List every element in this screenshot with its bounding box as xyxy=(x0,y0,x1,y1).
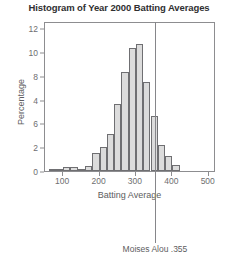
annotation-label: Moises Alou .355 xyxy=(123,244,188,254)
histogram-bar xyxy=(121,72,128,171)
histogram-bar xyxy=(158,145,165,171)
histogram-bar xyxy=(114,104,121,171)
y-tick-label: 0 xyxy=(18,167,38,177)
x-tick-mark xyxy=(171,172,172,176)
y-tick-label: 12 xyxy=(18,24,38,34)
histogram-bar xyxy=(129,48,136,171)
x-tick-mark xyxy=(135,172,136,176)
histogram-bar xyxy=(143,82,150,171)
x-tick-label: 300 xyxy=(118,176,152,186)
histogram-bar xyxy=(70,167,77,171)
x-tick-mark xyxy=(62,172,63,176)
x-tick-mark xyxy=(99,172,100,176)
histogram-bar xyxy=(56,169,63,171)
y-tick-label: 10 xyxy=(18,48,38,58)
histogram-bars xyxy=(45,23,214,171)
x-tick-label: 500 xyxy=(191,176,225,186)
annotation-pointer-line xyxy=(155,22,156,243)
y-tick-label: 2 xyxy=(18,143,38,153)
histogram-bar xyxy=(63,167,70,171)
plot-area xyxy=(44,22,215,172)
histogram-bar xyxy=(172,165,179,171)
histogram-bar xyxy=(92,153,99,171)
histogram-figure: Histogram of Year 2000 Batting Averages … xyxy=(0,0,238,265)
x-axis-label: Batting Average xyxy=(44,190,215,200)
histogram-bar xyxy=(100,147,107,171)
chart-title: Histogram of Year 2000 Batting Averages xyxy=(0,2,238,13)
histogram-bar xyxy=(85,166,92,171)
histogram-bar xyxy=(165,156,172,171)
histogram-bar xyxy=(49,169,56,171)
y-axis-label: Percentage xyxy=(16,62,26,142)
x-tick-label: 100 xyxy=(45,176,79,186)
x-tick-mark xyxy=(208,172,209,176)
x-tick-label: 200 xyxy=(82,176,116,186)
histogram-bar xyxy=(136,44,143,171)
histogram-bar xyxy=(107,134,114,171)
histogram-bar xyxy=(78,169,85,171)
x-tick-label: 400 xyxy=(154,176,188,186)
